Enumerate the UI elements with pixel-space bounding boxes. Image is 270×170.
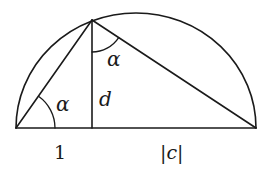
angle-arc-bottom (39, 96, 56, 128)
left-segment-label: 1 (54, 141, 66, 163)
semicircle-diagram: α α d 1 |c| (0, 0, 270, 170)
alpha-top-label: α (107, 47, 121, 71)
semicircle-arc (16, 13, 256, 128)
alpha-bottom-label: α (56, 92, 70, 116)
height-label: d (99, 87, 112, 111)
right-chord (92, 20, 256, 128)
right-segment-label: |c| (160, 141, 183, 164)
left-chord (16, 20, 92, 128)
